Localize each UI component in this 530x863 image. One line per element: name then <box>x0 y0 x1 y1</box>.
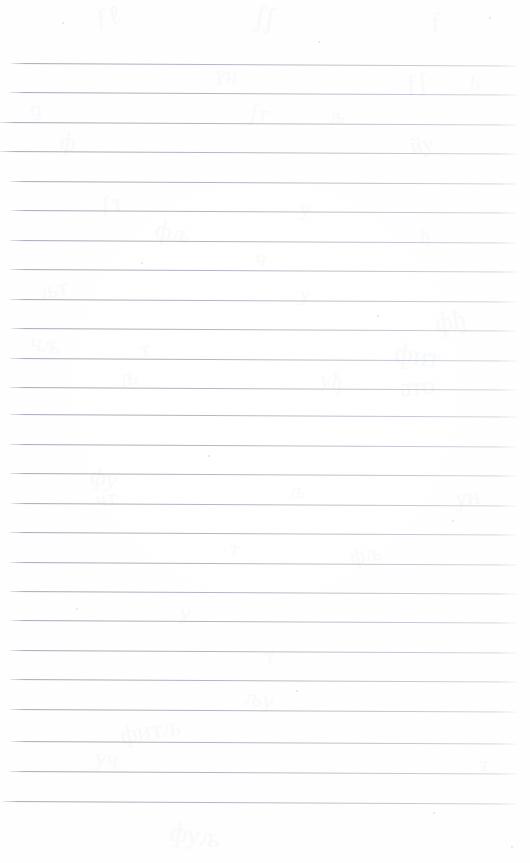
ruled-line <box>10 591 516 594</box>
scan-speckle <box>208 455 210 457</box>
ruled-line <box>10 299 516 302</box>
ruled-line <box>11 503 516 506</box>
bleed-through-mark: т <box>479 752 491 778</box>
ruled-line <box>0 151 517 155</box>
bleed-through-mark: һ <box>469 72 481 96</box>
ruled-line <box>11 620 516 623</box>
bleed-through-mark: ƒ <box>429 7 444 35</box>
bleed-through-mark: уђ <box>318 366 344 395</box>
ruled-line <box>10 240 516 243</box>
bleed-through-mark: ʃʃ <box>253 0 278 35</box>
scan-speckle <box>489 17 491 19</box>
bleed-through-mark: ф <box>58 127 78 157</box>
scan-speckle <box>141 262 143 264</box>
bleed-through-mark: ƒʃ <box>403 66 429 99</box>
bleed-through-layer: ƒℓʃʃƒɣиƒʃһɡʃтљфйуƒтуфљђчљтуфђчљтфитљуђат… <box>0 0 530 863</box>
scan-speckle <box>62 22 64 24</box>
scan-speckle <box>296 690 298 692</box>
scan-speckle <box>511 846 513 848</box>
ruled-line <box>10 650 516 653</box>
bleed-through-mark: т <box>138 336 151 363</box>
scan-speckle <box>76 608 78 610</box>
ruled-line <box>10 414 517 417</box>
bleed-through-mark: фуљ <box>168 816 222 854</box>
bleed-through-mark: ч <box>253 245 268 272</box>
bleed-through-mark: у <box>298 195 312 222</box>
bleed-through-mark: фљ <box>348 539 384 570</box>
bleed-through-mark: фитљ <box>118 711 183 750</box>
bleed-through-mark: фђ <box>433 304 468 339</box>
ruled-line <box>3 801 517 805</box>
bleed-through-mark: т <box>264 644 276 670</box>
ruled-line <box>10 709 516 712</box>
ruled-line <box>10 562 517 565</box>
bleed-through-mark: уч <box>94 745 120 774</box>
bleed-through-mark: ђ <box>419 224 431 248</box>
ruled-line <box>10 679 517 682</box>
ruled-line <box>11 328 516 331</box>
bleed-through-mark: љ <box>118 363 140 393</box>
bleed-through-mark: љу <box>243 684 277 716</box>
bleed-through-mark: т <box>228 535 241 561</box>
ruled-line <box>10 532 516 535</box>
bleed-through-mark: фу <box>88 462 121 495</box>
scan-speckle <box>433 812 435 814</box>
bleed-through-mark: фљ <box>152 215 193 252</box>
bleed-through-mark: ун <box>454 483 482 512</box>
ruled-line <box>10 444 516 447</box>
bleed-through-mark: чт <box>93 485 118 514</box>
ruled-line <box>10 771 516 774</box>
bleed-through-mark: фит <box>393 337 442 375</box>
ruled-line <box>0 122 517 126</box>
bleed-through-mark: ƒℓ <box>92 0 123 34</box>
bleed-through-mark: ƒт <box>98 189 124 219</box>
ruled-line <box>11 210 516 213</box>
scan-speckle <box>377 315 379 317</box>
ruled-line <box>11 63 517 66</box>
paper-background <box>0 0 530 863</box>
bleed-through-mark: йу <box>408 130 436 160</box>
bleed-through-mark: љ <box>329 103 346 129</box>
ruled-line <box>10 269 517 272</box>
scan-speckle <box>452 520 454 522</box>
bleed-through-mark: љт <box>38 274 71 306</box>
bleed-through-mark: у <box>299 282 312 308</box>
ruled-line <box>10 181 517 184</box>
bleed-through-mark: љ <box>288 477 307 505</box>
notebook-page: ƒℓʃʃƒɣиƒʃһɡʃтљфйуƒтуфљђчљтуфђчљтфитљуђат… <box>0 0 530 863</box>
ruled-line <box>10 358 517 361</box>
ruled-lines-layer <box>0 0 530 863</box>
ruled-line <box>10 92 517 95</box>
bleed-through-mark: у <box>178 599 193 626</box>
bleed-through-mark: ато <box>399 371 436 404</box>
bleed-through-mark: ɣи <box>213 60 240 90</box>
bleed-through-mark: чљ <box>28 328 63 361</box>
bleed-through-mark: ʃт <box>248 98 271 128</box>
bleed-through-mark: ɡ <box>28 95 42 122</box>
ruled-line <box>10 473 516 476</box>
scan-speckle <box>318 41 320 43</box>
ruled-line <box>11 741 516 744</box>
ruled-line <box>10 387 516 390</box>
